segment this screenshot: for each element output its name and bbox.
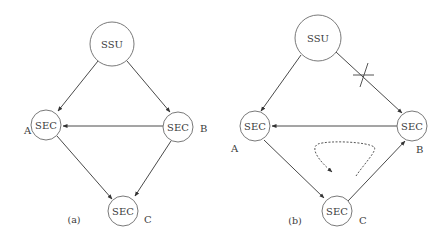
node-label: SSU	[101, 39, 123, 50]
panel-b: SSU SEC A SEC B SEC C (b)	[230, 15, 427, 226]
edge-a-to-c	[57, 136, 112, 199]
timing-loop-diagram: SSU SEC A SEC B SEC C (a)	[0, 0, 447, 241]
node-label: SEC	[401, 121, 423, 132]
node-side-label: C	[359, 215, 367, 226]
panel-caption-a: (a)	[67, 214, 80, 225]
node-label: SEC	[167, 122, 189, 133]
dashed-loop-arrow-icon	[315, 142, 375, 176]
edge-ssu-to-b	[127, 61, 170, 112]
node-side-label: C	[144, 214, 152, 225]
node-side-label: B	[416, 144, 423, 155]
node-label: SEC	[35, 120, 57, 131]
node-side-label: B	[200, 123, 207, 134]
node-label: SEC	[112, 206, 134, 217]
node-sec-c: SEC C	[108, 196, 152, 226]
panel-a: SSU SEC A SEC B SEC C (a)	[23, 22, 207, 226]
node-sec-a: SEC A	[230, 111, 270, 154]
cross-mark-icon	[353, 63, 374, 87]
node-sec-b: SEC B	[163, 112, 207, 142]
node-label: SEC	[244, 121, 266, 132]
node-sec-c: SEC C	[322, 196, 367, 226]
node-side-label: A	[230, 143, 239, 154]
edge-ssu-to-a	[58, 61, 98, 111]
panel-caption-b: (b)	[288, 215, 302, 226]
node-label: SSU	[307, 33, 329, 44]
edge-c-to-b	[348, 141, 405, 201]
node-ssu: SSU	[90, 22, 134, 66]
edge-b-to-c	[135, 141, 171, 196]
edge-ssu-to-b-broken	[336, 52, 402, 113]
node-ssu: SSU	[295, 15, 341, 61]
node-side-label: A	[23, 125, 32, 136]
node-label: SEC	[326, 206, 348, 217]
edge-ssu-to-a	[261, 55, 301, 111]
node-sec-a: SEC A	[23, 110, 61, 140]
node-sec-b: SEC B	[397, 111, 427, 155]
